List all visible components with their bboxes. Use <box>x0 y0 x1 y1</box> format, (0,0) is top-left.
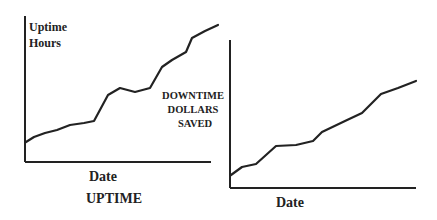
uptime-ylabel-line1: Uptime <box>29 20 68 34</box>
uptime-ylabel-line2: Hours <box>29 36 61 50</box>
savings-xlabel: Date <box>276 195 304 210</box>
figure: Uptime Hours Date UPTIME DOWNTIME DOLLAR… <box>0 0 437 220</box>
middle-label-line3: SAVED <box>178 118 213 129</box>
savings-line <box>231 81 416 175</box>
downtime-savings-chart: Date <box>230 40 416 210</box>
downtime-dollars-saved-label: DOWNTIME DOLLARS SAVED <box>162 90 224 129</box>
middle-label-line1: DOWNTIME <box>162 90 224 101</box>
middle-label-line2: DOLLARS <box>168 104 219 115</box>
uptime-caption: UPTIME <box>86 191 142 206</box>
uptime-xlabel: Date <box>89 169 117 184</box>
